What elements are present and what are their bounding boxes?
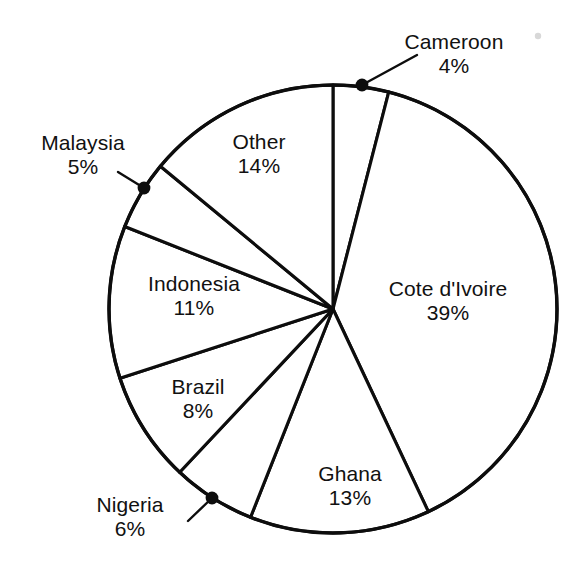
pie-label-name-brazil: Brazil [171,375,224,399]
pie-label-cameroon: Cameroon4% [405,30,504,77]
boundary-dot-nigeria [206,492,219,505]
pie-chart: Cameroon4%Cote d'Ivoire39%Ghana13%Nigeri… [0,0,581,576]
pie-label-indonesia: Indonesia11% [148,272,240,319]
pie-label-ghana: Ghana13% [318,462,382,509]
pie-label-value-indonesia: 11% [148,296,240,320]
pie-label-name-malaysia: Malaysia [41,131,125,155]
pie-label-name-nigeria: Nigeria [96,493,163,517]
pie-label-name-ghana: Ghana [318,462,382,486]
pie-label-value-brazil: 8% [171,399,224,423]
pie-label-value-nigeria: 6% [96,517,163,541]
pie-label-value-other: 14% [232,154,285,178]
pie-label-nigeria: Nigeria6% [96,493,163,540]
pie-label-value-malaysia: 5% [41,155,125,179]
pie-label-name-cote-d-ivoire: Cote d'Ivoire [389,277,508,301]
pie-label-malaysia: Malaysia5% [41,131,125,178]
scan-speck-artifact [535,33,541,39]
pie-label-name-other: Other [232,130,285,154]
pie-label-value-ghana: 13% [318,486,382,510]
pie-label-cote-d-ivoire: Cote d'Ivoire39% [389,277,508,324]
boundary-dot-malaysia [138,182,151,195]
pie-label-value-cameroon: 4% [405,54,504,78]
pie-label-value-cote-d-ivoire: 39% [389,301,508,325]
pie-label-name-indonesia: Indonesia [148,272,240,296]
pie-label-name-cameroon: Cameroon [405,30,504,54]
boundary-dot-cameroon [356,79,369,92]
pie-label-brazil: Brazil8% [171,375,224,422]
pie-label-other: Other14% [232,130,285,177]
